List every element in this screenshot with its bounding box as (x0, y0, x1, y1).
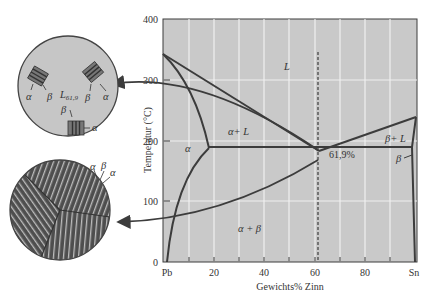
upper-inset-circle: α β β α β α L61,9 (18, 36, 118, 136)
x-axis-label: Gewichts% Zinn (256, 281, 324, 292)
y-tick-400: 400 (143, 14, 158, 25)
x-tick-80: 80 (360, 267, 370, 278)
y-tick-300: 300 (143, 75, 158, 86)
y-axis: 400 300 200 100 0 Temperatur (°C) (142, 14, 158, 268)
upper-label-alpha-2: α (103, 91, 109, 102)
upper-label-beta-1: β (46, 91, 53, 102)
eutectic-label: 61,9% (329, 149, 355, 160)
lower-inset-circle: α β α (10, 160, 116, 260)
region-label-liquid: L (283, 61, 290, 72)
upper-label-alpha-1: α (26, 91, 32, 102)
upper-label-beta-2: β (84, 92, 91, 103)
lower-label-beta: β (100, 160, 107, 171)
region-label-alpha-liquid: α+ L (228, 126, 249, 137)
x-tick-20: 20 (209, 267, 219, 278)
x-tick-pb: Pb (162, 267, 173, 278)
region-label-alpha: α (185, 143, 191, 154)
phase-diagram-figure: 400 300 200 100 0 Temperatur (°C) Pb 20 … (0, 0, 439, 306)
x-tick-60: 60 (310, 267, 320, 278)
region-label-beta-liquid: β+ L (384, 133, 406, 144)
region-label-beta: β (395, 153, 402, 164)
upper-label-beta-3: β (60, 104, 67, 115)
lower-label-alpha-1: α (90, 161, 96, 172)
colony-3 (68, 121, 84, 135)
lower-label-alpha-2: α (110, 167, 116, 178)
x-axis: Pb 20 40 60 80 Sn Gewichts% Zinn (162, 267, 420, 292)
y-tick-0: 0 (153, 257, 158, 268)
upper-label-alpha-3: α (92, 122, 98, 133)
liquid-label-sub: 61,9 (66, 94, 79, 102)
x-tick-sn: Sn (409, 267, 420, 278)
y-tick-100: 100 (143, 196, 158, 207)
x-tick-40: 40 (259, 267, 269, 278)
y-axis-label: Temperatur (°C) (142, 107, 154, 173)
region-label-alpha-beta: α + β (238, 223, 262, 234)
